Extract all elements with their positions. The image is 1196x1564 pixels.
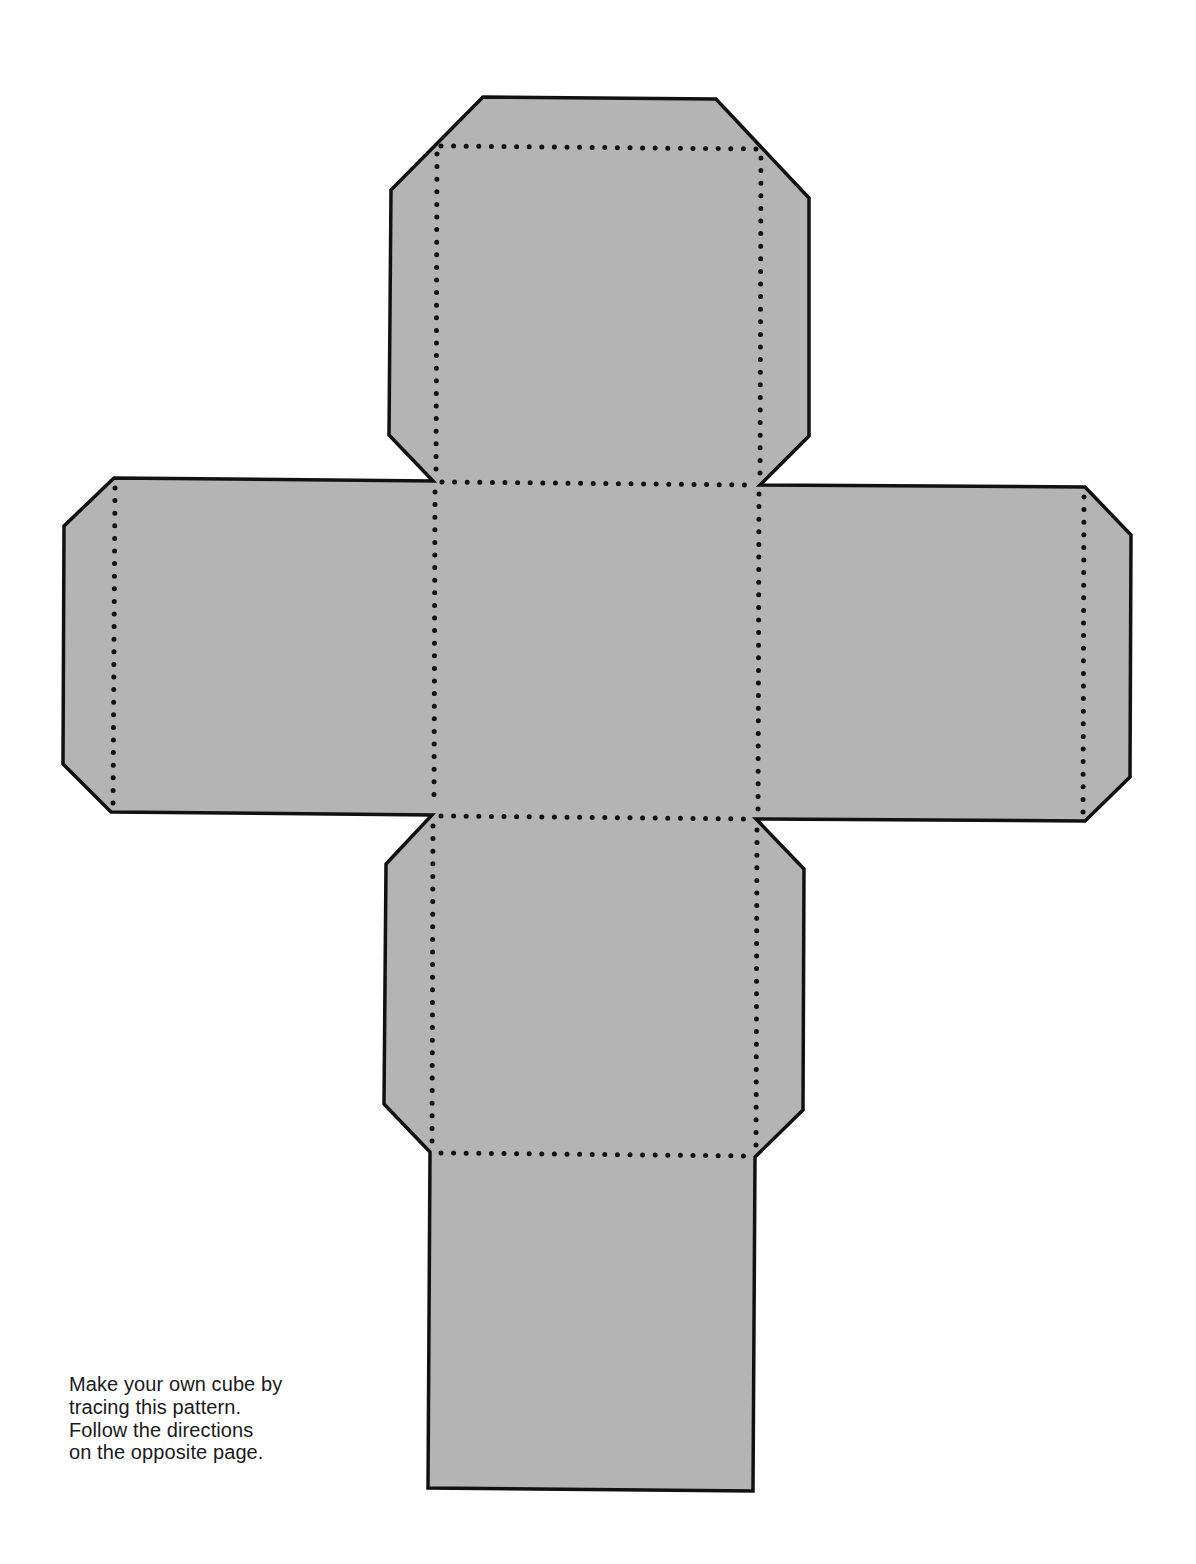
instruction-caption: Make your own cube by tracing this patte…: [69, 1373, 282, 1464]
caption-line-4: on the opposite page.: [69, 1441, 282, 1464]
cube-net-diagram: [0, 0, 1196, 1564]
caption-line-3: Follow the directions: [69, 1419, 282, 1442]
caption-line-1: Make your own cube by: [69, 1373, 282, 1396]
cube-net-outline: [63, 97, 1131, 1491]
caption-line-2: tracing this pattern.: [69, 1396, 282, 1419]
